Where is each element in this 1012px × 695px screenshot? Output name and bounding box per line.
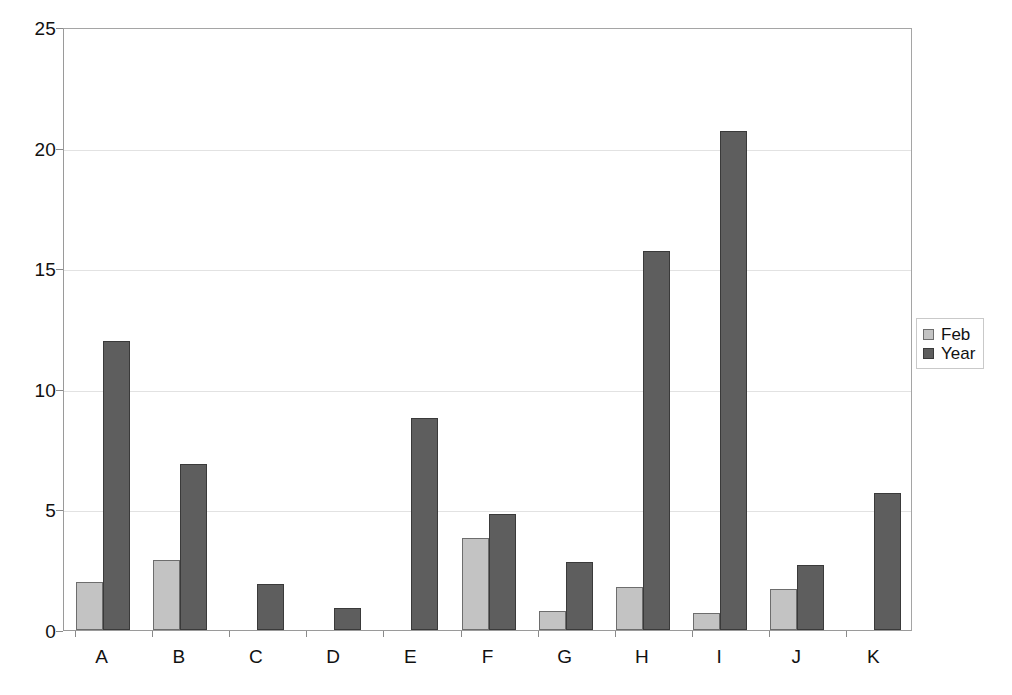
bar-feb-G <box>539 611 566 630</box>
chart-figure: 0510152025 ABCDEFGHIJK Feb Year <box>0 0 1012 695</box>
bar-year-F <box>489 514 516 630</box>
x-tick-mark <box>229 631 230 637</box>
x-tick-mark <box>461 631 462 637</box>
legend-item[interactable]: Year <box>923 344 975 362</box>
legend: Feb Year <box>916 318 984 369</box>
x-tick-label-G: G <box>557 647 572 667</box>
y-tick-label: 15 <box>10 260 56 279</box>
y-tick-mark <box>56 510 63 511</box>
bar-year-H <box>643 251 670 630</box>
y-tick-mark <box>56 149 63 150</box>
x-tick-label-I: I <box>716 647 721 667</box>
x-tick-mark <box>692 631 693 637</box>
y-tick-label: 20 <box>10 140 56 159</box>
x-tick-mark <box>615 631 616 637</box>
bar-year-J <box>797 565 824 630</box>
bar-year-G <box>566 562 593 630</box>
y-tick-label: 25 <box>10 19 56 38</box>
y-tick-label: 0 <box>10 622 56 641</box>
y-tick-label: 10 <box>10 381 56 400</box>
x-tick-label-F: F <box>482 647 494 667</box>
bar-feb-A <box>76 582 103 630</box>
y-axis: 0510152025 <box>0 28 56 631</box>
bar-year-A <box>103 341 130 630</box>
x-tick-mark <box>383 631 384 637</box>
legend-label-year: Year <box>941 345 975 362</box>
bar-feb-H <box>616 587 643 630</box>
bar-feb-B <box>153 560 180 630</box>
x-tick-label-D: D <box>326 647 340 667</box>
plot-area <box>63 28 912 631</box>
legend-swatch-year-icon <box>923 348 934 359</box>
y-tick-mark <box>56 28 63 29</box>
x-tick-label-B: B <box>172 647 185 667</box>
x-axis: ABCDEFGHIJK <box>63 631 912 677</box>
bar-year-K <box>874 493 901 630</box>
bar-year-I <box>720 131 747 630</box>
x-tick-mark <box>846 631 847 637</box>
legend-swatch-feb-icon <box>923 329 934 340</box>
bar-feb-F <box>462 538 489 630</box>
bar-feb-J <box>770 589 797 630</box>
x-tick-mark <box>306 631 307 637</box>
y-tick-mark <box>56 390 63 391</box>
legend-label-feb: Feb <box>941 326 970 343</box>
x-tick-mark <box>769 631 770 637</box>
x-tick-label-K: K <box>867 647 880 667</box>
x-tick-label-H: H <box>635 647 649 667</box>
x-tick-mark <box>152 631 153 637</box>
bar-year-D <box>334 608 361 630</box>
x-tick-mark <box>75 631 76 637</box>
bar-year-E <box>411 418 438 630</box>
x-tick-label-J: J <box>791 647 801 667</box>
y-tick-mark <box>56 631 63 632</box>
x-tick-label-A: A <box>95 647 108 667</box>
bar-year-C <box>257 584 284 630</box>
bar-year-B <box>180 464 207 630</box>
bar-series-container <box>64 29 911 630</box>
legend-item[interactable]: Feb <box>923 325 975 343</box>
y-tick-mark <box>56 269 63 270</box>
x-tick-label-E: E <box>404 647 417 667</box>
x-tick-mark <box>538 631 539 637</box>
x-tick-label-C: C <box>249 647 263 667</box>
y-tick-label: 5 <box>10 501 56 520</box>
bar-feb-I <box>693 613 720 630</box>
